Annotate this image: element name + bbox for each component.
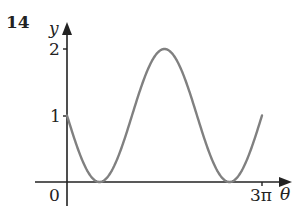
x-tick-label-3pi: 3π	[250, 185, 272, 205]
function-curve	[67, 49, 262, 182]
x-axis-label: θ	[280, 184, 290, 204]
y-tick-label-1: 1	[50, 106, 61, 126]
origin-label: 0	[49, 185, 60, 205]
y-tick-label-2: 2	[49, 39, 60, 59]
y-axis-arrow-icon	[62, 22, 72, 35]
graph-figure: 14 y θ 0 2 1 3π	[0, 0, 304, 221]
question-number: 14	[6, 12, 30, 32]
y-axis-label: y	[48, 18, 59, 38]
